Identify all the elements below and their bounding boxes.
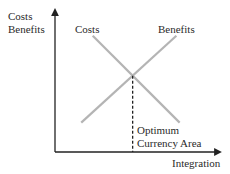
chart-svg: Costs Benefits Integration Costs Benefit… <box>0 0 230 174</box>
series-label-benefits: Benefits <box>158 23 195 35</box>
y-axis-label-line-2: Benefits <box>8 23 45 35</box>
y-axis-label-line-1: Costs <box>8 10 32 22</box>
series-line-costs <box>93 36 180 123</box>
series-label-costs: Costs <box>75 23 99 35</box>
series-line-benefits <box>81 36 176 123</box>
x-axis-label: Integration <box>172 157 221 169</box>
series-group <box>81 36 179 123</box>
annotation-line-2: Currency Area <box>137 137 202 149</box>
chart: Costs Benefits Integration Costs Benefit… <box>0 0 230 174</box>
annotation-line-1: Optimum <box>137 124 180 136</box>
